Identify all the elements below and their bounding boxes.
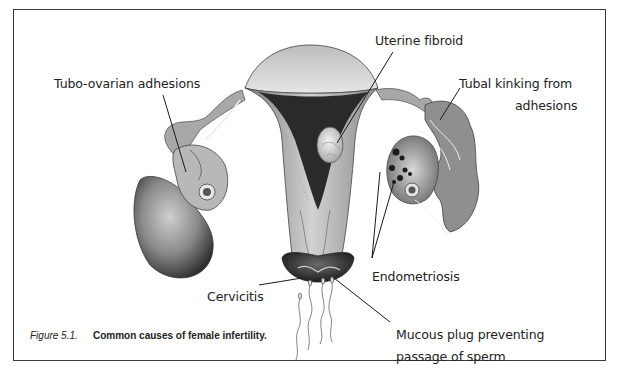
label-tubal-kinking-line2: adhesions — [515, 98, 577, 113]
sperm-cells — [296, 277, 334, 360]
label-uterine-fibroid: Uterine fibroid — [375, 33, 463, 48]
label-endometriosis: Endometriosis — [372, 269, 460, 284]
figure-caption: Figure 5.1. Common causes of female infe… — [30, 330, 267, 341]
label-tubo-ovarian-adhesions: Tubo-ovarian adhesions — [54, 76, 200, 91]
label-tubal-kinking-line1: Tubal kinking from — [459, 76, 572, 91]
uterus — [245, 45, 378, 282]
label-mucous-plug-line2: passage of sperm — [396, 349, 506, 364]
female-reproductive-anatomy-illustration — [0, 0, 621, 375]
right-tube-and-ovary — [376, 88, 479, 235]
label-cervicitis: Cervicitis — [207, 289, 264, 304]
left-tube-and-ovary — [134, 90, 245, 278]
leader-cervicitis — [259, 278, 302, 285]
figure-title: Common causes of female infertility. — [93, 330, 267, 341]
figure-number: Figure 5.1. — [30, 330, 78, 341]
leader-mucous-plug — [334, 278, 390, 322]
label-mucous-plug-line1: Mucous plug preventing — [396, 327, 544, 342]
